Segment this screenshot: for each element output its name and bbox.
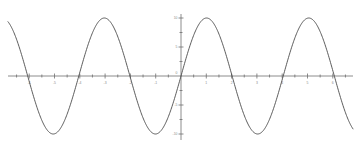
y-tick-label: 5 — [176, 45, 178, 49]
x-tick-label: 5 — [307, 81, 309, 85]
x-tick-label: -3 — [104, 81, 107, 85]
origin-tick-label: 0 — [176, 71, 178, 75]
y-tick-label: -5 — [174, 103, 177, 107]
x-tick-label: -4 — [78, 81, 81, 85]
x-tick-label: -5 — [53, 81, 56, 85]
plot-canvas: -6-5-4-3-2-1123456 105-5-10 0 — [0, 0, 361, 149]
y-tick-label: 10 — [174, 16, 178, 20]
x-tick-label: 3 — [256, 81, 258, 85]
x-tick-label: -1 — [154, 81, 157, 85]
x-tick-label: 6 — [332, 81, 334, 85]
x-tick-label: 1 — [205, 81, 207, 85]
origin-label: 0 — [176, 71, 178, 75]
sine-wave-plot: -6-5-4-3-2-1123456 105-5-10 0 — [0, 0, 361, 149]
y-tick-label: -10 — [173, 132, 178, 136]
x-tick-label: 2 — [231, 81, 233, 85]
